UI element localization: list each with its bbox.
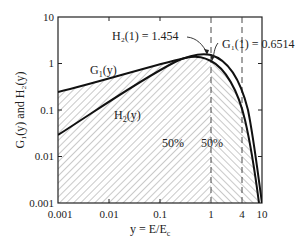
x-tick-4: 4	[239, 208, 245, 220]
y-axis-label: G₁(y) and H₂(y)	[13, 71, 27, 148]
x-tick-10: 10	[257, 208, 269, 220]
y-tick-0.01: 0.01	[35, 150, 54, 162]
annotation-g1: G₁(1) = 0.6514	[222, 37, 295, 51]
x-tick-0.1: 0.1	[153, 208, 167, 220]
g1-label: G1(y)	[90, 63, 117, 79]
hatch-left-region	[58, 57, 211, 203]
x-tick-0.001: 0.001	[48, 208, 73, 220]
y-tick-0.1: 0.1	[40, 104, 54, 116]
percent-left: 50%	[162, 136, 184, 150]
annotation-h2: H₂(1) = 1.454	[112, 29, 179, 43]
h2-label: H2(y)	[114, 108, 141, 124]
x-tick-0.01: 0.01	[99, 208, 118, 220]
y-tick-1: 1	[49, 57, 55, 69]
x-tick-1: 1	[208, 208, 214, 220]
percent-right: 50%	[201, 136, 223, 150]
chart: H₂(1) = 1.454 G₁(1) = 0.6514 G1(y) H2(y)…	[0, 0, 301, 245]
h2-annotation-arrow	[187, 37, 207, 53]
y-tick-10: 10	[43, 11, 55, 23]
x-axis-label: y = E/Ec	[130, 222, 171, 238]
